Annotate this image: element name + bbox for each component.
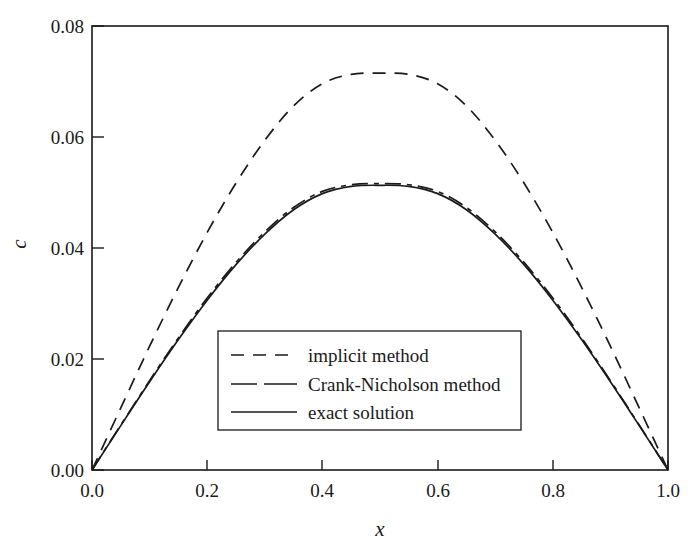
y-axis-ticks (92, 26, 104, 470)
y-tick-label-1: 0.02 (51, 349, 84, 370)
chart-figure: 0.08 0.06 0.04 0.02 0.00 0.0 0.2 0.4 0.6… (0, 0, 691, 547)
x-tick-label-1: 0.2 (195, 480, 219, 501)
y-tick-label-2: 0.04 (51, 238, 85, 259)
x-tick-labels: 0.0 0.2 0.4 0.6 0.8 1.0 (80, 480, 680, 501)
y-tick-label-0: 0.00 (51, 460, 84, 481)
x-tick-label-5: 1.0 (656, 480, 680, 501)
x-axis-title: x (374, 517, 385, 541)
legend-label-1: Crank-Nicholson method (308, 374, 501, 395)
y-axis-title: c (7, 239, 31, 249)
x-tick-label-2: 0.4 (310, 480, 334, 501)
legend-label-0: implicit method (308, 345, 429, 366)
y-tick-labels: 0.08 0.06 0.04 0.02 0.00 (51, 16, 85, 481)
x-tick-label-4: 0.8 (541, 480, 565, 501)
x-axis-ticks (92, 460, 668, 470)
chart-svg: 0.08 0.06 0.04 0.02 0.00 0.0 0.2 0.4 0.6… (0, 0, 691, 547)
legend-label-2: exact solution (308, 402, 415, 423)
x-tick-label-0: 0.0 (80, 480, 104, 501)
y-tick-label-4: 0.08 (51, 16, 84, 37)
y-tick-label-3: 0.06 (51, 127, 84, 148)
chart-legend: implicit method Crank-Nicholson method e… (218, 331, 521, 430)
x-tick-label-3: 0.6 (426, 480, 450, 501)
